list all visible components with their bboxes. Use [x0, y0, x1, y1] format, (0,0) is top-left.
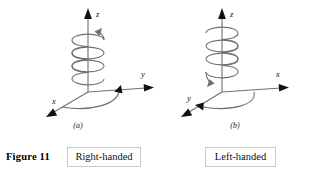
z-axis-arrowhead-b [218, 8, 226, 19]
diagram-panels: z y x (a) [0, 0, 313, 142]
ground-arc-arrowhead-b [195, 103, 204, 111]
y-axis-arrowhead-a [144, 84, 154, 92]
left-handed-label-box: Left-handed [205, 147, 276, 167]
right-handed-label-box: Right-handed [67, 147, 141, 167]
panel-sublabel-b: (b) [157, 121, 313, 130]
x-axis-arrowhead-a [46, 109, 57, 117]
ground-arc-b [203, 92, 254, 109]
figure-number: Figure 11 [6, 151, 50, 162]
figure-11-container: z y x (a) [0, 0, 313, 174]
x-axis-label-b: x [275, 69, 280, 79]
y-axis-arrowhead-b [181, 109, 192, 117]
panel-right-handed: z y x (a) [0, 0, 156, 142]
y-axis-label-a: y [140, 69, 145, 79]
z-axis-arrowhead-a [84, 8, 92, 19]
panel-sublabel-a: (a) [0, 121, 156, 130]
figure-caption-row: Figure 11 Right-handed Left-handed [0, 143, 313, 174]
panel-left-handed: z x y (b) [157, 0, 313, 142]
x-axis-line-b [222, 88, 281, 92]
ground-arc-arrowhead-a [114, 85, 122, 93]
y-axis-label-b: y [186, 93, 191, 103]
z-axis-label-b: z [229, 9, 234, 19]
x-axis-label-a: x [51, 96, 56, 106]
z-axis-label-a: z [95, 9, 100, 19]
ground-arc-a [62, 92, 119, 109]
x-axis-arrowhead-b [279, 84, 289, 92]
